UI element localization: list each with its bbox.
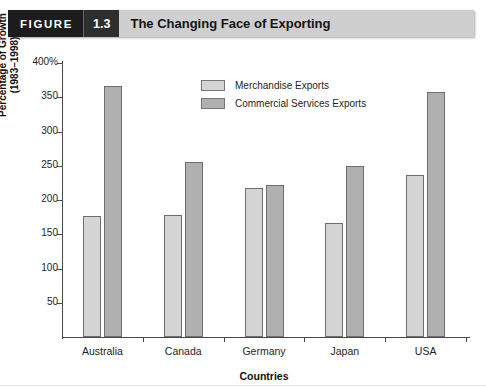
x-axis-tick-mark bbox=[466, 337, 467, 342]
bar[interactable] bbox=[266, 185, 284, 337]
y-axis-tick-label: 400% bbox=[32, 56, 58, 67]
figure-title: The Changing Face of Exporting bbox=[119, 10, 474, 37]
bar[interactable] bbox=[104, 86, 122, 337]
chart-legend: Merchandise ExportsCommercial Services E… bbox=[201, 78, 366, 114]
bar[interactable] bbox=[406, 175, 424, 337]
bar[interactable] bbox=[245, 188, 263, 337]
y-axis-tick-label: 150 bbox=[41, 227, 58, 238]
bar[interactable] bbox=[164, 215, 182, 337]
legend-item[interactable]: Merchandise Exports bbox=[201, 78, 366, 93]
y-axis-tick-label: 250 bbox=[41, 159, 58, 170]
page-bottom-rule bbox=[0, 385, 486, 386]
y-axis-title-line1: Percentage of Growth bbox=[0, 13, 8, 117]
bar[interactable] bbox=[427, 92, 445, 337]
x-axis-line bbox=[62, 337, 470, 338]
x-axis-tick-mark bbox=[224, 337, 225, 342]
x-axis-tick-mark bbox=[304, 337, 305, 342]
legend-swatch-commercial-services bbox=[201, 98, 225, 109]
x-axis-category-label: USA bbox=[376, 345, 476, 357]
y-axis-title-line2: (1983–1998) bbox=[9, 37, 20, 94]
y-axis-tick-label: 50 bbox=[47, 296, 58, 307]
bar[interactable] bbox=[185, 162, 203, 337]
y-axis-title: Percentage of Growth (1983–1998) bbox=[0, 0, 21, 140]
legend-item-label: Commercial Services Exports bbox=[235, 98, 366, 109]
y-axis-tick-label: 200 bbox=[41, 193, 58, 204]
figure-number: 1.3 bbox=[83, 10, 119, 37]
y-axis-tick-label: 100 bbox=[41, 262, 58, 273]
y-axis-tick-label: 300 bbox=[41, 125, 58, 136]
bar[interactable] bbox=[83, 216, 101, 337]
x-axis-title: Countries bbox=[62, 370, 466, 382]
bar[interactable] bbox=[325, 223, 343, 337]
bar-group bbox=[406, 63, 445, 337]
legend-swatch-merchandise bbox=[201, 80, 225, 91]
figure-header: FIGURE 1.3 The Changing Face of Exportin… bbox=[8, 10, 474, 37]
bar-chart: Percentage of Growth (1983–1998) 400%350… bbox=[0, 44, 486, 374]
legend-item-label: Merchandise Exports bbox=[235, 80, 329, 91]
bar[interactable] bbox=[346, 166, 364, 337]
x-axis-tick-mark bbox=[143, 337, 144, 342]
bar-group bbox=[164, 63, 203, 337]
legend-item[interactable]: Commercial Services Exports bbox=[201, 96, 366, 111]
y-axis-tick-label: 350 bbox=[41, 90, 58, 101]
x-axis-tick-mark bbox=[385, 337, 386, 342]
bar-group bbox=[83, 63, 122, 337]
